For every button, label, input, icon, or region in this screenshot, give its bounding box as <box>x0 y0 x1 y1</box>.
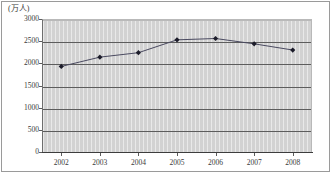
data-point-marker <box>213 36 218 41</box>
series-line <box>61 39 292 67</box>
data-point-marker <box>252 41 257 46</box>
chart-figure: (万人) 050010001500200025003000 2002200320… <box>0 0 331 173</box>
data-point-marker <box>136 50 141 55</box>
data-point-marker <box>97 55 102 60</box>
series-markers <box>59 36 296 69</box>
data-point-marker <box>59 64 64 69</box>
data-point-marker <box>290 47 295 52</box>
data-series-layer <box>0 0 331 173</box>
data-point-marker <box>174 37 179 42</box>
